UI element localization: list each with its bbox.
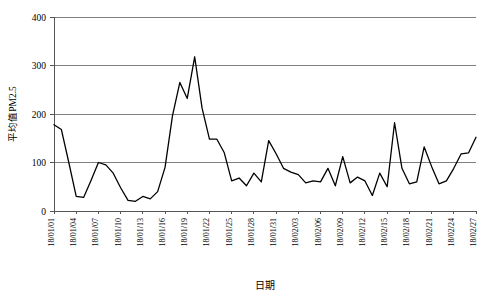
x-tick-label: 18/02/21: [425, 218, 434, 246]
x-tick-label: 18/01/31: [269, 218, 278, 246]
y-axis-title-text: 平均值PM2.5: [7, 86, 18, 142]
chart-svg: 0100200300400 平均值PM2.5 18/01/0118/01/041…: [0, 0, 492, 295]
x-tick-label: 18/01/28: [247, 218, 256, 246]
y-tick-label: 0: [41, 207, 46, 217]
x-tick-label: 18/01/16: [158, 218, 167, 246]
x-tick-label: 18/02/18: [402, 218, 411, 246]
x-tick-label: 18/02/27: [469, 218, 478, 246]
y-tick-labels: 0100200300400: [32, 13, 54, 217]
pm25-line-chart: 0100200300400 平均值PM2.5 18/01/0118/01/041…: [0, 0, 492, 295]
x-tick-label: 18/01/13: [136, 218, 145, 246]
x-tick-label: 18/01/19: [180, 218, 189, 246]
x-tick-label: 18/01/04: [69, 218, 78, 246]
x-tick-label: 18/02/06: [314, 218, 323, 246]
x-tick-labels: 18/01/0118/01/0418/01/0718/01/1018/01/13…: [47, 211, 478, 246]
x-tick-label: 18/01/10: [114, 218, 123, 246]
x-axis-title: 日期: [255, 280, 275, 291]
y-tick-label: 200: [32, 110, 47, 120]
y-tick-label: 300: [32, 61, 47, 71]
x-tick-label: 18/02/12: [358, 218, 367, 246]
x-tick-label: 18/02/03: [291, 218, 300, 246]
y-tick-label: 100: [32, 158, 47, 168]
x-tick-label: 18/01/22: [202, 218, 211, 246]
x-tick-label: 18/01/25: [225, 218, 234, 246]
y-axis-title: 平均值PM2.5: [7, 86, 18, 142]
x-tick-label: 18/01/01: [47, 218, 56, 246]
x-tick-label: 18/02/15: [380, 218, 389, 246]
x-tick-label: 18/01/07: [91, 218, 100, 246]
y-tick-label: 400: [32, 13, 47, 23]
x-tick-label: 18/02/09: [336, 218, 345, 246]
x-axis-title-text: 日期: [255, 280, 275, 291]
pm25-series-line: [54, 57, 476, 202]
x-tick-label: 18/02/24: [447, 218, 456, 246]
